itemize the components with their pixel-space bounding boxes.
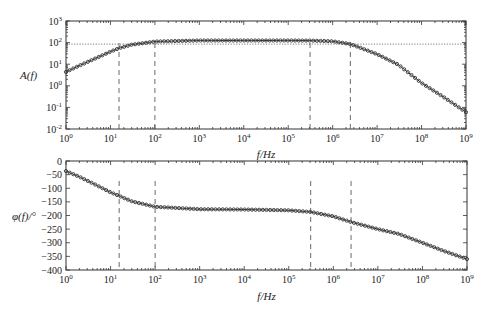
y-tick-label: −50 <box>46 169 62 180</box>
y-tick-label: −400 <box>41 265 62 276</box>
y-tick-label: 101 <box>49 58 63 70</box>
series-line <box>66 41 466 113</box>
x-tick-label: 107 <box>370 132 384 144</box>
x-axis-label: f/Hz <box>257 290 276 302</box>
x-tick-label: 103 <box>193 273 207 285</box>
y-tick-label: −100 <box>41 183 62 194</box>
x-tick-label: 109 <box>460 273 474 285</box>
phase-plot: 1001011021031041051061071081090−50−100−1… <box>12 156 474 303</box>
bode-figure: 10010110210310410510610710810910-210-110… <box>0 0 485 310</box>
x-tick-label: 108 <box>416 273 430 285</box>
x-tick-label: 109 <box>459 132 473 144</box>
y-tick-label: −350 <box>41 251 62 262</box>
y-axis-label: A(f) <box>19 69 37 82</box>
x-tick-label: 103 <box>193 132 207 144</box>
x-tick-label: 107 <box>371 273 385 285</box>
plot-frame <box>66 21 466 129</box>
y-tick-label: −150 <box>41 196 62 207</box>
x-tick-label: 102 <box>148 273 162 285</box>
y-tick-label: 10-1 <box>46 101 62 113</box>
y-tick-label: 0 <box>57 156 62 167</box>
x-axis-label: f/Hz <box>257 148 276 160</box>
x-tick-label: 100 <box>59 132 73 144</box>
x-tick-label: 104 <box>237 273 251 285</box>
y-tick-label: −200 <box>41 210 62 221</box>
y-tick-label: −300 <box>41 237 62 248</box>
y-tick-label: −250 <box>41 224 62 235</box>
y-tick-label: 102 <box>49 36 63 48</box>
y-tick-label: 103 <box>49 15 63 27</box>
x-tick-label: 105 <box>282 273 296 285</box>
x-tick-label: 102 <box>148 132 162 144</box>
x-tick-label: 106 <box>326 132 340 144</box>
x-tick-label: 108 <box>415 132 429 144</box>
y-tick-label: 100 <box>49 79 63 91</box>
series-line <box>66 171 467 259</box>
x-tick-label: 105 <box>281 132 295 144</box>
y-axis-label: φ(f)/° <box>12 210 37 223</box>
x-tick-label: 101 <box>104 273 118 285</box>
magnitude-plot: 10010110210310410510610710810910-210-110… <box>19 15 473 161</box>
plot-frame <box>66 161 467 270</box>
x-tick-label: 104 <box>237 132 251 144</box>
x-tick-label: 106 <box>327 273 341 285</box>
x-tick-label: 101 <box>104 132 118 144</box>
